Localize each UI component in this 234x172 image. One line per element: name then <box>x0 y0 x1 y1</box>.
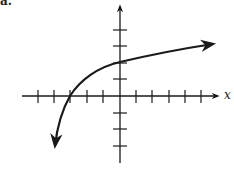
x-axis-label: x <box>224 88 231 102</box>
coordinate-graph <box>0 0 234 172</box>
function-curve <box>55 44 213 146</box>
